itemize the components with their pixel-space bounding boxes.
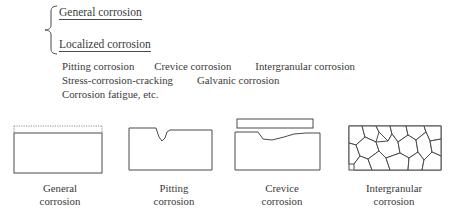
localized-type-crevice: Crevice corrosion [154, 60, 231, 73]
heading-general-corrosion: General corrosion [59, 6, 142, 19]
original-surface-dotted-line [14, 126, 102, 133]
metal-block [14, 133, 102, 173]
localized-type-pitting: Pitting corrosion [62, 60, 134, 73]
metal-block-with-pit [129, 128, 212, 170]
localized-type-galvanic: Galvanic corrosion [197, 74, 279, 87]
caption-intergranular-corrosion: Intergranular corrosion [340, 182, 448, 208]
diagram-pitting-corrosion [126, 118, 216, 176]
caption-crevice-corrosion: Crevice corrosion [232, 182, 332, 208]
curly-brace-icon [41, 5, 59, 55]
heading-localized-corrosion: Localized corrosion [59, 38, 151, 51]
caption-line-2: corrosion [340, 195, 448, 208]
localized-type-row: Pitting corrosionCrevice corrosionInterg… [62, 60, 355, 73]
caption-line-1: General [10, 182, 110, 195]
crevice-plate [237, 119, 313, 128]
caption-pitting-corrosion: Pitting corrosion [126, 182, 222, 208]
metal-block-with-crevice-attack [235, 132, 320, 170]
caption-general-corrosion: General corrosion [10, 182, 110, 208]
caption-line-2: corrosion [232, 195, 332, 208]
localized-type-stress-corrosion-cracking: Stress-corrosion-cracking [62, 74, 173, 87]
heading-general-corrosion-label: General corrosion [59, 6, 142, 20]
diagram-crevice-corrosion [232, 118, 328, 176]
localized-type-row: Stress-corrosion-crackingGalvanic corros… [62, 74, 279, 87]
localized-type-corrosion-fatigue: Corrosion fatigue, etc. [62, 88, 159, 101]
caption-line-1: Crevice [232, 182, 332, 195]
caption-line-1: Pitting [126, 182, 222, 195]
caption-line-2: corrosion [126, 195, 222, 208]
diagram-general-corrosion [10, 118, 106, 176]
heading-localized-corrosion-label: Localized corrosion [59, 38, 151, 52]
diagram-intergranular-corrosion [346, 118, 446, 176]
caption-line-2: corrosion [10, 195, 110, 208]
localized-type-intergranular: Intergranular corrosion [255, 60, 355, 73]
localized-type-row: Corrosion fatigue, etc. [62, 88, 159, 101]
grain-boundaries [349, 126, 441, 170]
corrosion-classification-figure: General corrosion Localized corrosion Pi… [0, 0, 454, 215]
caption-line-1: Intergranular [340, 182, 448, 195]
